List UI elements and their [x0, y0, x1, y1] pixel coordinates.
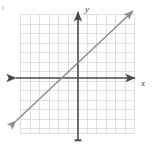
coordinate-plane-figure: y x — [0, 0, 152, 145]
graph-canvas — [0, 0, 152, 145]
y-axis-label: y — [85, 5, 89, 14]
scan-artifact — [2, 6, 3, 10]
axes — [16, 12, 135, 141]
grid-lines — [20, 14, 134, 133]
x-axis-label: x — [141, 79, 145, 88]
